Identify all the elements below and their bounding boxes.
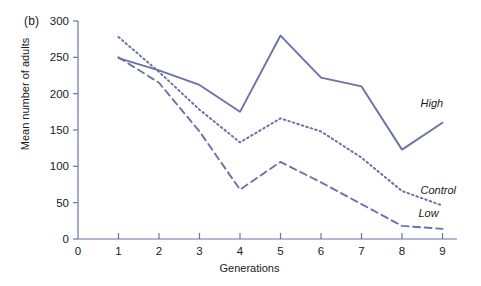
- x-tick-label: 3: [196, 245, 202, 257]
- series-line-low: [119, 57, 443, 228]
- y-axis-ticks: 050100150200250300: [50, 15, 78, 245]
- chart-figure: (b) Mean number of adults Generations 05…: [0, 0, 481, 286]
- y-tick-label: 250: [50, 51, 69, 63]
- series-label-high: High: [421, 97, 444, 109]
- y-tick-label: 100: [50, 160, 69, 172]
- x-tick-label: 0: [75, 245, 81, 257]
- y-tick-label: 300: [50, 15, 69, 27]
- x-tick-label: 7: [358, 245, 364, 257]
- y-tick-label: 0: [63, 233, 69, 245]
- series-label-low: Low: [419, 207, 440, 219]
- series-annotations: HighControlLow: [419, 97, 457, 219]
- x-tick-label: 5: [277, 245, 283, 257]
- y-tick-label: 150: [50, 124, 69, 136]
- series-lines: [119, 36, 443, 229]
- x-tick-label: 9: [439, 245, 445, 257]
- x-tick-label: 4: [237, 245, 244, 257]
- series-label-control: Control: [421, 184, 457, 196]
- x-tick-label: 1: [115, 245, 121, 257]
- x-axis-ticks: 0123456789: [75, 233, 446, 257]
- x-tick-label: 6: [318, 245, 324, 257]
- y-tick-label: 200: [50, 88, 69, 100]
- x-tick-label: 8: [399, 245, 405, 257]
- y-tick-label: 50: [56, 197, 69, 209]
- x-tick-label: 2: [156, 245, 162, 257]
- series-line-control: [119, 37, 443, 206]
- plot-area: 050100150200250300 0123456789 HighContro…: [0, 0, 481, 286]
